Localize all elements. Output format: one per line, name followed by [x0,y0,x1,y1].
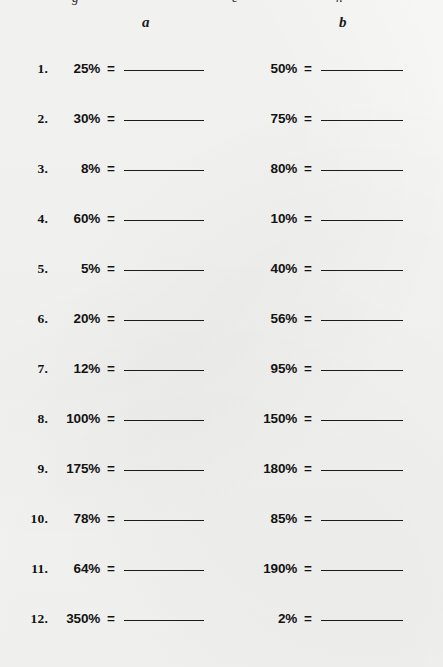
problem-cell-a: 64% = [56,561,204,576]
percent-value: 8% [56,161,100,176]
answer-blank[interactable] [124,170,204,171]
problem-cell-b: 180% = [253,461,403,476]
problem-row: 6. 20% = 56% = [0,311,443,361]
percent-value: 80% [253,161,297,176]
problem-row: 12. 350% = 2% = [0,611,443,661]
clipped-fragment-1: g [72,0,79,5]
answer-blank[interactable] [321,120,403,121]
problem-number: 6. [0,311,48,327]
answer-blank[interactable] [124,120,204,121]
percent-value: 150% [253,411,297,426]
equals-sign: = [297,161,319,176]
equals-sign: = [297,111,319,126]
problem-list: 1. 25% = 50% = 2. 30% = 75% = [0,61,443,661]
problem-cell-b: 50% = [253,61,403,76]
equals-sign: = [100,611,122,626]
problem-cell-b: 10% = [253,211,403,226]
problem-number: 10. [0,511,48,527]
problem-cell-a: 25% = [56,61,204,76]
answer-blank[interactable] [124,220,204,221]
percent-value: 95% [253,361,297,376]
problem-cell-b: 56% = [253,311,403,326]
problem-row: 5. 5% = 40% = [0,261,443,311]
equals-sign: = [297,361,319,376]
answer-blank[interactable] [321,420,403,421]
answer-blank[interactable] [321,170,403,171]
equals-sign: = [297,211,319,226]
percent-value: 60% [56,211,100,226]
problem-cell-a: 350% = [56,611,204,626]
problem-number: 4. [0,211,48,227]
problem-cell-a: 60% = [56,211,204,226]
problem-cell-b: 2% = [253,611,403,626]
answer-blank[interactable] [124,620,204,621]
problem-cell-a: 30% = [56,111,204,126]
equals-sign: = [100,111,122,126]
problem-cell-b: 190% = [253,561,403,576]
equals-sign: = [100,411,122,426]
answer-blank[interactable] [321,370,403,371]
answer-blank[interactable] [321,470,403,471]
percent-value: 25% [56,61,100,76]
equals-sign: = [100,311,122,326]
percent-value: 40% [253,261,297,276]
problem-cell-b: 40% = [253,261,403,276]
problem-cell-b: 80% = [253,161,403,176]
column-header-b: b [339,14,347,31]
answer-blank[interactable] [124,520,204,521]
problem-cell-a: 8% = [56,161,204,176]
answer-blank[interactable] [124,470,204,471]
problem-number: 12. [0,611,48,627]
equals-sign: = [100,61,122,76]
problem-cell-b: 150% = [253,411,403,426]
percent-value: 190% [253,561,297,576]
problem-cell-b: 85% = [253,511,403,526]
problem-cell-b: 75% = [253,111,403,126]
answer-blank[interactable] [321,270,403,271]
answer-blank[interactable] [321,220,403,221]
problem-cell-a: 12% = [56,361,204,376]
problem-number: 5. [0,261,48,277]
percent-value: 50% [253,61,297,76]
problem-row: 4. 60% = 10% = [0,211,443,261]
percent-value: 64% [56,561,100,576]
equals-sign: = [100,561,122,576]
percent-value: 20% [56,311,100,326]
answer-blank[interactable] [124,70,204,71]
answer-blank[interactable] [124,320,204,321]
percent-value: 5% [56,261,100,276]
answer-blank[interactable] [321,70,403,71]
equals-sign: = [297,261,319,276]
percent-value: 12% [56,361,100,376]
problem-cell-a: 100% = [56,411,204,426]
problem-row: 8. 100% = 150% = [0,411,443,461]
answer-blank[interactable] [124,420,204,421]
problem-cell-a: 175% = [56,461,204,476]
percent-value: 2% [253,611,297,626]
answer-blank[interactable] [124,370,204,371]
worksheet-page: g e h a b 1. 25% = 50% = 2. 30% = [0,0,443,667]
problem-number: 2. [0,111,48,127]
percent-value: 100% [56,411,100,426]
answer-blank[interactable] [321,320,403,321]
problem-number: 1. [0,61,48,77]
percent-value: 78% [56,511,100,526]
problem-cell-a: 5% = [56,261,204,276]
answer-blank[interactable] [321,620,403,621]
problem-row: 3. 8% = 80% = [0,161,443,211]
problem-number: 3. [0,161,48,177]
answer-blank[interactable] [124,570,204,571]
problem-number: 11. [0,561,48,577]
answer-blank[interactable] [321,520,403,521]
problem-number: 8. [0,411,48,427]
equals-sign: = [100,361,122,376]
equals-sign: = [297,61,319,76]
answer-blank[interactable] [124,270,204,271]
problem-row: 2. 30% = 75% = [0,111,443,161]
equals-sign: = [100,261,122,276]
equals-sign: = [100,161,122,176]
answer-blank[interactable] [321,570,403,571]
problem-row: 9. 175% = 180% = [0,461,443,511]
equals-sign: = [297,611,319,626]
equals-sign: = [297,511,319,526]
